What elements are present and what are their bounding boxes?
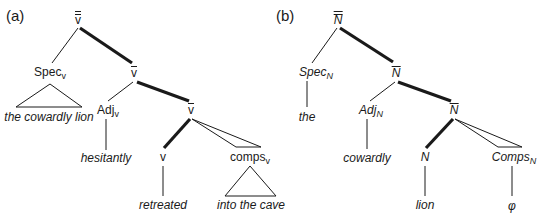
- edge-vbar1-vbar2-head-path: [137, 82, 189, 101]
- edge-root-spec: [312, 28, 337, 63]
- spec-triangle: [16, 84, 82, 107]
- node-b-root-ndoublebar: N: [334, 13, 343, 27]
- edge-nbar2-comps-wedge: [455, 119, 522, 147]
- edge-nbar2-head: [426, 119, 453, 148]
- edge-vbar2-comps-wedge: [192, 119, 261, 147]
- panel-b-edges: [307, 28, 522, 196]
- leaf-b-adj: cowardly: [343, 151, 390, 165]
- edge-vbar1-adj: [108, 82, 133, 101]
- edge-root-nbar1-head-path: [340, 28, 393, 62]
- leaf-b-spec: the: [299, 110, 316, 124]
- node-b-nbar1: N: [392, 66, 401, 80]
- node-a-vbar2: v: [188, 103, 194, 117]
- edge-root-spec: [52, 28, 78, 63]
- node-a-root-vdoublebar: v: [75, 13, 81, 27]
- leaf-a-head: retreated: [139, 198, 187, 212]
- comps-triangle: [225, 166, 276, 196]
- node-a-adj: Adjv: [97, 103, 119, 121]
- edge-root-vbar1-head-path: [80, 28, 132, 63]
- leaf-b-comps-phi: φ: [508, 199, 516, 213]
- leaf-a-adj: hesitantly: [81, 151, 132, 165]
- panel-label-a: (a): [6, 8, 24, 24]
- edge-nbar1-adj: [370, 82, 395, 101]
- node-a-comps: compsv: [230, 150, 270, 168]
- panel-label-b: (b): [276, 8, 294, 24]
- node-a-spec: Specv: [34, 65, 66, 83]
- leaf-a-comps: into the cave: [217, 198, 285, 212]
- leaf-a-spec: the cowardly lion: [4, 110, 93, 124]
- node-b-head: N: [421, 150, 430, 164]
- node-a-head: v: [160, 150, 166, 164]
- node-b-adj: AdjN: [359, 103, 383, 121]
- edge-nbar1-nbar2-head-path: [398, 82, 451, 101]
- node-b-nbar2: N: [450, 103, 459, 117]
- edge-vbar2-head: [164, 119, 190, 148]
- node-b-spec: SpecN: [299, 65, 333, 83]
- leaf-b-head: lion: [416, 198, 435, 212]
- node-b-comps: CompsN: [492, 150, 537, 168]
- node-a-vbar1: v: [131, 66, 137, 80]
